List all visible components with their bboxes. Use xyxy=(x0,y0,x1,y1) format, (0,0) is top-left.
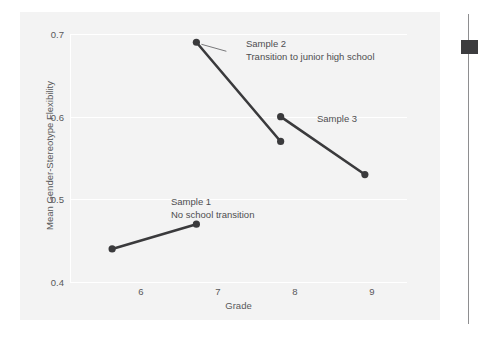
annotation-sample-1: Sample 1 No school transition xyxy=(171,196,254,221)
annotation-sample-3-line1: Sample 3 xyxy=(317,113,357,126)
scrollbar-thumb[interactable] xyxy=(461,40,478,54)
annotation-sample-1-line2: No school transition xyxy=(171,209,254,222)
annotation-sample-2-line2: Transition to junior high school xyxy=(246,51,375,64)
leader-line-sample2 xyxy=(201,44,226,51)
data-point-sample-3-8 xyxy=(277,113,284,120)
scrollbar-track[interactable] xyxy=(468,14,469,324)
data-point-sample-2-8 xyxy=(277,138,284,145)
annotation-sample-2-line1: Sample 2 xyxy=(246,38,375,51)
series-layer xyxy=(0,0,481,339)
annotation-sample-1-line1: Sample 1 xyxy=(171,196,254,209)
data-point-sample-1-7 xyxy=(193,221,200,228)
annotation-sample-3: Sample 3 xyxy=(317,113,357,126)
annotation-sample-2: Sample 2 Transition to junior high schoo… xyxy=(246,38,375,63)
series-line-sample-1 xyxy=(112,224,196,249)
data-point-sample-2-7 xyxy=(193,39,200,46)
data-point-sample-1-6 xyxy=(109,245,116,252)
figure-root: Mean Gender-Stereotype Flexibility 0.7 0… xyxy=(0,0,481,339)
leader-line-group xyxy=(201,44,226,51)
data-point-sample-3-9 xyxy=(361,171,368,178)
